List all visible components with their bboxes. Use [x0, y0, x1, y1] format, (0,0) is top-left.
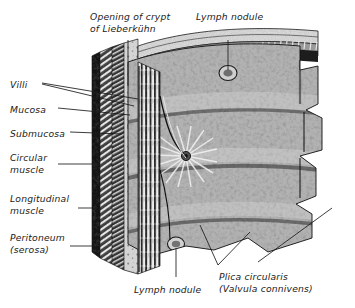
- label-lymph-nodule-bottom: Lymph nodule: [134, 284, 201, 296]
- label-line: Lymph nodule: [196, 11, 263, 23]
- label-line: Longitudinal: [10, 193, 69, 205]
- label-plica-circularis: Plica circularis(Valvula connivens): [219, 271, 313, 294]
- label-mucosa: Mucosa: [10, 104, 46, 116]
- label-longitudinal-muscle: Longitudinalmuscle: [10, 193, 69, 216]
- longitudinal-muscle-layer: [100, 47, 112, 264]
- label-submucosa: Submucosa: [10, 128, 65, 140]
- label-peritoneum: Peritoneum(serosa): [10, 232, 65, 255]
- label-line: of Lieberkühn: [90, 23, 170, 35]
- label-line: muscle: [10, 205, 69, 217]
- label-line: Opening of crypt: [90, 11, 170, 23]
- label-line: Lymph nodule: [134, 284, 201, 296]
- peritoneum-layer: [92, 52, 100, 258]
- label-opening-of-crypt: Opening of cryptof Lieberkühn: [90, 11, 170, 34]
- small-intestine-illustration: [0, 0, 355, 308]
- label-villi: Villi: [10, 79, 28, 91]
- label-line: Villi: [10, 79, 28, 91]
- label-circular-muscle: Circularmuscle: [10, 152, 47, 175]
- label-line: Plica circularis: [219, 271, 313, 283]
- label-line: (Valvula connivens): [219, 283, 313, 295]
- label-line: Circular: [10, 152, 47, 164]
- label-line: Mucosa: [10, 104, 46, 116]
- anatomy-figure: Opening of cryptof LieberkühnLymph nodul…: [0, 0, 355, 308]
- label-lymph-nodule-top: Lymph nodule: [196, 11, 263, 23]
- label-line: Peritoneum: [10, 232, 65, 244]
- circular-muscle-layer: [112, 43, 124, 270]
- label-line: (serosa): [10, 244, 65, 256]
- label-line: muscle: [10, 164, 47, 176]
- mucosa-cut-face: [138, 62, 160, 274]
- label-line: Submucosa: [10, 128, 65, 140]
